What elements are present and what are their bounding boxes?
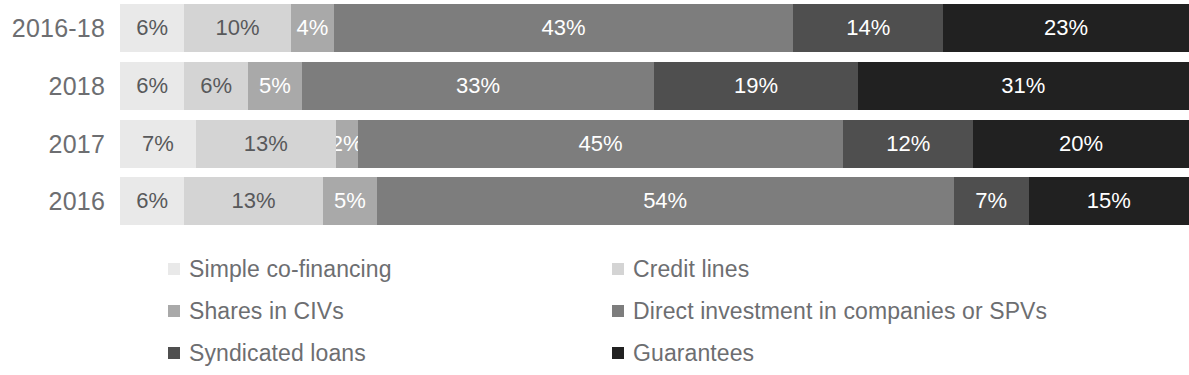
segment-value-label: 15% bbox=[1087, 190, 1131, 212]
legend-item[interactable]: Shares in CIVs bbox=[168, 290, 392, 332]
segment-value-label: 12% bbox=[886, 133, 930, 155]
legend-swatch-icon bbox=[168, 347, 180, 359]
bar-segment: 13% bbox=[184, 177, 323, 225]
bar-segment: 6% bbox=[120, 4, 184, 52]
bar-row: 20177%13%2%45%12%20% bbox=[0, 120, 1189, 168]
category-label-2016: 2016 bbox=[0, 177, 105, 225]
bar-segment: 4% bbox=[291, 4, 334, 52]
bar-segment: 5% bbox=[248, 62, 301, 110]
bar-segment: 43% bbox=[334, 4, 794, 52]
legend-swatch-icon bbox=[612, 347, 624, 359]
bar-segment: 2% bbox=[336, 120, 358, 168]
legend-label: Guarantees bbox=[633, 340, 754, 367]
segment-value-label: 45% bbox=[578, 133, 622, 155]
legend-swatch-icon bbox=[612, 305, 624, 317]
bar-segment: 15% bbox=[1029, 177, 1189, 225]
legend-label: Direct investment in companies or SPVs bbox=[633, 298, 1047, 325]
segment-value-label: 19% bbox=[734, 75, 778, 97]
segment-value-label: 4% bbox=[296, 17, 328, 39]
segment-value-label: 6% bbox=[136, 75, 168, 97]
bar-segment: 31% bbox=[858, 62, 1189, 110]
bar-segment: 54% bbox=[377, 177, 954, 225]
bar-segment: 33% bbox=[302, 62, 655, 110]
segment-value-label: 5% bbox=[259, 75, 291, 97]
category-label-2018: 2018 bbox=[0, 62, 105, 110]
bar-segment: 6% bbox=[184, 62, 248, 110]
segment-value-label: 7% bbox=[142, 133, 174, 155]
bar-segment: 6% bbox=[120, 177, 184, 225]
segment-value-label: 20% bbox=[1059, 133, 1103, 155]
legend-column-right: Credit linesDirect investment in compani… bbox=[612, 248, 1047, 374]
bar-row: 20186%6%5%33%19%31% bbox=[0, 62, 1189, 110]
segment-value-label: 6% bbox=[200, 75, 232, 97]
segment-value-label: 43% bbox=[542, 17, 586, 39]
legend-item[interactable]: Direct investment in companies or SPVs bbox=[612, 290, 1047, 332]
segment-value-label: 14% bbox=[846, 17, 890, 39]
segment-value-label: 7% bbox=[975, 190, 1007, 212]
segment-value-label: 2% bbox=[336, 133, 358, 155]
bar-track: 6%13%5%54%7%15% bbox=[120, 177, 1189, 225]
legend-label: Syndicated loans bbox=[189, 340, 366, 367]
bar-segment: 45% bbox=[358, 120, 844, 168]
legend-label: Credit lines bbox=[633, 256, 749, 283]
legend-swatch-icon bbox=[168, 305, 180, 317]
segment-value-label: 54% bbox=[643, 190, 687, 212]
bar-track: 7%13%2%45%12%20% bbox=[120, 120, 1189, 168]
bar-segment: 6% bbox=[120, 62, 184, 110]
segment-value-label: 5% bbox=[334, 190, 366, 212]
legend-label: Shares in CIVs bbox=[189, 298, 344, 325]
bar-segment: 13% bbox=[196, 120, 336, 168]
legend-label: Simple co-financing bbox=[189, 256, 392, 283]
bar-track: 6%6%5%33%19%31% bbox=[120, 62, 1189, 110]
bar-segment: 23% bbox=[943, 4, 1189, 52]
bar-track: 6%10%4%43%14%23% bbox=[120, 4, 1189, 52]
legend-item[interactable]: Credit lines bbox=[612, 248, 1047, 290]
segment-value-label: 6% bbox=[136, 17, 168, 39]
segment-value-label: 31% bbox=[1001, 75, 1045, 97]
bar-row: 2016-186%10%4%43%14%23% bbox=[0, 4, 1189, 52]
segment-value-label: 6% bbox=[136, 190, 168, 212]
bar-segment: 5% bbox=[323, 177, 376, 225]
segment-value-label: 23% bbox=[1044, 17, 1088, 39]
bar-segment: 12% bbox=[843, 120, 973, 168]
legend-item[interactable]: Simple co-financing bbox=[168, 248, 392, 290]
segment-value-label: 10% bbox=[216, 17, 260, 39]
legend-swatch-icon bbox=[612, 263, 624, 275]
legend-swatch-icon bbox=[168, 263, 180, 275]
category-label-2017: 2017 bbox=[0, 120, 105, 168]
legend-item[interactable]: Syndicated loans bbox=[168, 332, 392, 374]
bar-row: 20166%13%5%54%7%15% bbox=[0, 177, 1189, 225]
bar-segment: 19% bbox=[654, 62, 857, 110]
legend-column-left: Simple co-financingShares in CIVsSyndica… bbox=[168, 248, 392, 374]
chart-legend: Simple co-financingShares in CIVsSyndica… bbox=[0, 248, 1189, 375]
bar-segment: 10% bbox=[184, 4, 291, 52]
stacked-bar-chart: 2016-186%10%4%43%14%23%20186%6%5%33%19%3… bbox=[0, 0, 1189, 232]
legend-item[interactable]: Guarantees bbox=[612, 332, 1047, 374]
bar-segment: 14% bbox=[793, 4, 943, 52]
segment-value-label: 13% bbox=[232, 190, 276, 212]
segment-value-label: 13% bbox=[244, 133, 288, 155]
segment-value-label: 33% bbox=[456, 75, 500, 97]
bar-segment: 7% bbox=[120, 120, 196, 168]
bar-segment: 7% bbox=[954, 177, 1029, 225]
bar-segment: 20% bbox=[973, 120, 1189, 168]
category-label-2016-18: 2016-18 bbox=[0, 4, 105, 52]
